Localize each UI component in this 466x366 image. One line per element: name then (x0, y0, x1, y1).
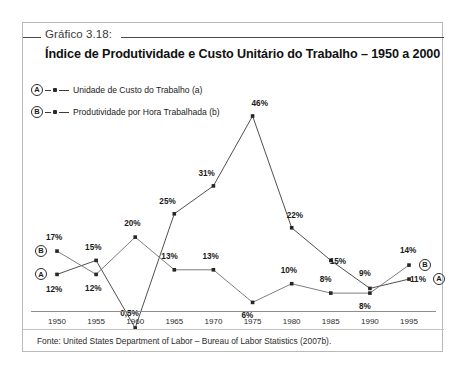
source-separator (23, 329, 444, 330)
data-label: 15% (330, 257, 346, 266)
data-label: 13% (161, 252, 177, 261)
data-label: 15% (85, 243, 101, 252)
figure-frame: Gráfico 3.18: Índice de Produtividade e … (22, 22, 443, 352)
series-lines (23, 23, 444, 353)
x-axis-line (31, 311, 436, 312)
x-axis-tick-label: 1995 (400, 317, 418, 326)
data-label: 31% (198, 169, 214, 178)
x-axis-tick-label: 1955 (87, 317, 105, 326)
x-axis-tick-label: 1990 (361, 317, 379, 326)
data-label: 22% (287, 211, 303, 220)
x-axis-tick-label: 1970 (205, 317, 223, 326)
series-b-start-marker-icon: B (35, 245, 47, 257)
data-label: 20% (124, 219, 140, 228)
data-point-marker (290, 282, 294, 286)
data-label: 25% (159, 197, 175, 206)
x-axis-tick-label: 1950 (48, 317, 66, 326)
data-label: 10% (281, 266, 297, 275)
data-label: 8% (320, 275, 332, 284)
data-point-marker (290, 226, 294, 230)
data-point-marker (94, 259, 98, 263)
source-note: Fonte: United States Department of Labor… (37, 336, 331, 346)
data-point-marker (251, 114, 255, 118)
data-point-marker (407, 263, 411, 267)
x-axis-tick-label: 1960 (126, 317, 144, 326)
data-label: 9% (359, 269, 371, 278)
data-point-marker (251, 301, 255, 305)
data-label: 12% (85, 284, 101, 293)
series-a-end-marker-icon: A (433, 273, 445, 285)
data-point-marker (133, 235, 137, 239)
series-line-b (57, 237, 409, 302)
data-label: 13% (202, 252, 218, 261)
data-label: 11% (410, 275, 426, 284)
data-label: 14% (400, 246, 416, 255)
data-label: 46% (252, 99, 268, 108)
data-point-marker (368, 291, 372, 295)
data-point-marker (94, 273, 98, 277)
series-line-a (57, 116, 409, 328)
chart-plot-area: 12%15%0,5%25%31%46%22%15%9%11%17%12%20%1… (23, 23, 444, 353)
data-point-marker (329, 291, 333, 295)
data-point-marker (212, 184, 216, 188)
data-label: 12% (46, 285, 62, 294)
data-label: 17% (46, 233, 62, 242)
data-point-marker (368, 287, 372, 291)
data-label: 8% (359, 302, 371, 311)
x-axis-tick-label: 1985 (322, 317, 340, 326)
data-point-marker (173, 268, 177, 272)
series-b-end-marker-icon: B (419, 259, 431, 271)
data-point-marker (55, 249, 59, 253)
x-axis-tick-label: 1980 (283, 317, 301, 326)
x-axis-tick-label: 1975 (244, 317, 262, 326)
x-axis-tick-label: 1965 (165, 317, 183, 326)
data-point-marker (173, 212, 177, 216)
data-point-marker (212, 268, 216, 272)
data-point-marker (55, 273, 59, 277)
